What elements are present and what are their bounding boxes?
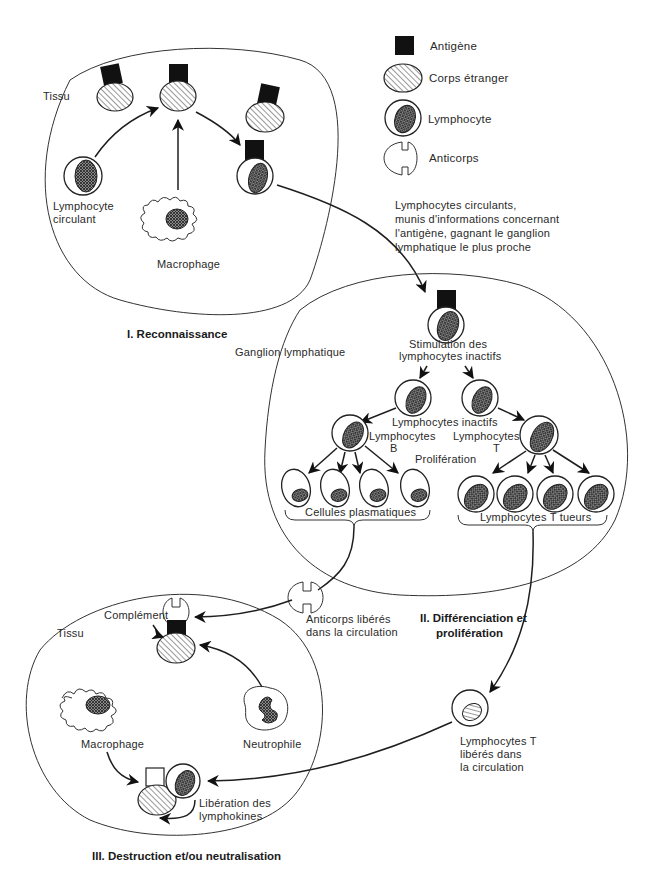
lymphocyte-label: Lymphocyte bbox=[53, 200, 114, 212]
stimulation-label: lymphocytes inactifs bbox=[399, 350, 502, 362]
neutrophil-label: Neutrophile bbox=[243, 738, 301, 750]
arrow bbox=[528, 455, 535, 473]
antigen-icon bbox=[395, 36, 414, 55]
foreign-body-icon bbox=[384, 64, 422, 92]
released-antibody bbox=[288, 582, 323, 613]
tissue-label: Tissu bbox=[43, 90, 70, 102]
stage-title: II. Différenciation et bbox=[420, 612, 527, 624]
stage-title: prolifération bbox=[436, 627, 503, 639]
lymphocyte-icon bbox=[385, 100, 421, 136]
arrow bbox=[545, 455, 553, 473]
foreign-body-antigen bbox=[160, 64, 196, 111]
lymphocyte-b bbox=[332, 415, 368, 452]
arrow bbox=[420, 366, 427, 378]
lymphocyte-with-antigen bbox=[237, 140, 273, 195]
arrow bbox=[361, 408, 396, 422]
plasma-cells bbox=[278, 466, 434, 510]
stage-title: III. Destruction et/ou neutralisation bbox=[92, 850, 281, 862]
released-t-lymphocyte bbox=[452, 690, 488, 726]
arrow bbox=[553, 450, 589, 473]
arrow bbox=[200, 645, 262, 687]
arrow bbox=[208, 722, 452, 781]
macrophage-label: Macrophage bbox=[81, 738, 144, 750]
foreign-body-antigen bbox=[246, 83, 284, 132]
arrow bbox=[498, 408, 524, 420]
released-t-label: libérés dans bbox=[460, 748, 522, 760]
arrow bbox=[196, 112, 240, 145]
lymphokines-label: lymphokines bbox=[199, 810, 263, 822]
stage-destruction: Tissu Complément Macrophage Neutrophile bbox=[26, 594, 322, 862]
released-t-label: Lymphocytes T bbox=[460, 735, 537, 747]
connector bbox=[318, 527, 354, 590]
legend-label: Corps étranger bbox=[429, 72, 509, 84]
released-antibody-label: Anticorps libérés bbox=[306, 613, 391, 625]
antibody-antigen-complex bbox=[157, 598, 195, 663]
b-cell-label: Lymphocytes bbox=[369, 430, 436, 442]
stage-title: I. Reconnaissance bbox=[127, 328, 227, 340]
t-cell-label: T bbox=[493, 442, 500, 454]
stimulation-label: Stimulation des bbox=[409, 338, 488, 350]
transfer-note: Lymphocytes circulants, munis d'informat… bbox=[395, 199, 559, 253]
killer-t-label: Lymphocytes T tueurs bbox=[480, 511, 592, 523]
destruction-complex bbox=[138, 764, 200, 815]
complement-label: Complément bbox=[104, 609, 168, 621]
arrow bbox=[493, 451, 526, 473]
inactive-lymphocyte-t bbox=[462, 380, 498, 416]
lymphocyte-t bbox=[520, 416, 559, 456]
plasma-cells-label: Cellules plasmatiques bbox=[305, 506, 416, 518]
foreign-body-antigen bbox=[97, 63, 133, 111]
arrow bbox=[340, 452, 345, 473]
note-line: munis d'informations concernant bbox=[395, 213, 559, 225]
released-antibody-label: dans la circulation bbox=[306, 626, 398, 638]
stage-differentiation: Ganglion lymphatique Stimulation des lym… bbox=[235, 274, 628, 639]
inactive-label: Lymphocytes inactifs bbox=[392, 416, 498, 428]
legend-label: Anticorps bbox=[429, 152, 479, 164]
legend-item-lymphocyte: Lymphocyte bbox=[385, 100, 492, 136]
arrow bbox=[153, 625, 163, 637]
legend-label: Lymphocyte bbox=[428, 113, 492, 125]
b-cell-label: B bbox=[390, 442, 398, 454]
tissue-label: Tissu bbox=[57, 627, 84, 639]
macrophage-label: Macrophage bbox=[157, 258, 220, 270]
arrow bbox=[195, 600, 292, 617]
legend-item-foreign-body: Corps étranger bbox=[384, 64, 509, 92]
legend-item-antigen: Antigène bbox=[395, 36, 477, 55]
t-cell-label: Lymphocytes bbox=[453, 430, 520, 442]
released-t-label: la circulation bbox=[460, 761, 524, 773]
arrow bbox=[465, 366, 473, 378]
lymphocyte-label: circulant bbox=[53, 213, 96, 225]
legend-item-antibody: Anticorps bbox=[384, 142, 479, 175]
legend-label: Antigène bbox=[430, 40, 477, 52]
macrophage bbox=[60, 689, 116, 732]
macrophage bbox=[141, 197, 197, 241]
immune-response-diagram: Antigène Corps étranger Lymphocyte Antic… bbox=[0, 0, 660, 882]
arrow bbox=[107, 752, 138, 782]
lymphokines-label: Libération des bbox=[199, 797, 271, 809]
note-line: Lymphocytes circulants, bbox=[395, 199, 517, 211]
stimulated-lymphocyte bbox=[428, 290, 464, 344]
proliferation-label: Prolifération bbox=[415, 453, 476, 465]
killer-t-cells bbox=[458, 476, 614, 514]
arrow bbox=[355, 452, 360, 473]
arrow bbox=[95, 108, 158, 157]
neutrophil bbox=[244, 686, 288, 730]
lymph-node-label: Ganglion lymphatique bbox=[235, 346, 345, 358]
legend: Antigène Corps étranger Lymphocyte Antic… bbox=[384, 36, 509, 175]
inactive-lymphocyte-b bbox=[395, 380, 431, 416]
antibody-icon bbox=[384, 142, 417, 175]
note-line: lymphatique le plus proche bbox=[395, 241, 531, 253]
stage-reconnaissance: Tissu Lymphocyte circulant Macrophage bbox=[43, 48, 338, 340]
lymphocyte-circulating bbox=[64, 157, 102, 195]
note-line: l'antigène, gagnant le ganglion bbox=[395, 227, 550, 239]
